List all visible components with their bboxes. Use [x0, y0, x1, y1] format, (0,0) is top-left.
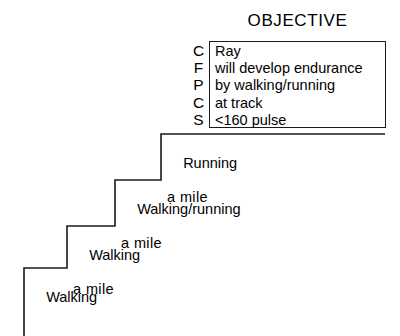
objective-line-3: by walking/running: [215, 77, 385, 94]
objective-block: C F P C S Ray will develop endurance by …: [188, 41, 386, 128]
cfpcs-letter-p: P: [188, 76, 209, 93]
cfpcs-letter-f: F: [188, 59, 209, 76]
objective-line-5: <160 pulse: [215, 112, 385, 129]
step-label-4-line1: Running: [183, 155, 237, 171]
diagram-canvas: Walking Walking a mile Walking/running a…: [0, 0, 400, 336]
cfpcs-letter-column: C F P C S: [188, 41, 209, 128]
cfpcs-letter-c1: C: [188, 42, 209, 59]
step-label-4: Running a mile: [167, 138, 237, 240]
objective-line-4: at track: [215, 95, 385, 112]
objective-title: OBJECTIVE: [209, 11, 386, 31]
step-label-4-line2: a mile: [167, 189, 237, 206]
objective-line-1: Ray: [215, 43, 385, 60]
cfpcs-letter-s: S: [188, 111, 209, 128]
objective-line-2: will develop endurance: [215, 60, 385, 77]
objective-text-box: Ray will develop endurance by walking/ru…: [209, 41, 386, 128]
cfpcs-letter-c2: C: [188, 94, 209, 111]
